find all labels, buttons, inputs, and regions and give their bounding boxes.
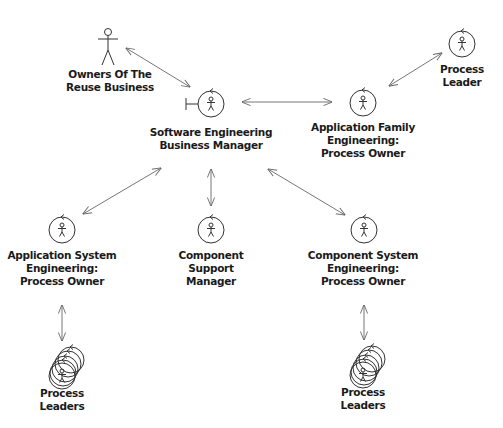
label-line: Manager [179,275,244,288]
label-line: Support [179,262,244,275]
node-label-owners: Owners Of The Reuse Business [66,68,154,94]
label-line: Software Engineering [150,126,272,139]
node-label-application-system: Application System Engineering: Process … [8,249,117,288]
label-line: Process [440,63,484,76]
label-line: Reuse Business [66,81,154,94]
label-line: Process Owner [311,147,415,160]
node-label-component-system: Component System Engineering: Process Ow… [308,249,418,288]
label-line: Component [179,249,244,262]
stacked-circles-with-figure-icon[interactable] [350,344,385,389]
stacked-circles-with-figure-icon[interactable] [49,345,84,390]
circle-with-figure-icon[interactable] [449,29,475,58]
label-line: Engineering: [8,262,117,275]
node-label-process-leader: Process Leader [440,63,484,89]
label-line: Business Manager [150,139,272,152]
label-line: Application Family [311,121,415,134]
label-line: Engineering: [308,262,418,275]
circle-with-figure-icon[interactable] [350,88,376,117]
edge-sebm-cse [268,169,345,215]
diagram-canvas [0,0,503,428]
label-line: Process [40,387,85,400]
circle-with-figure-icon[interactable] [198,215,224,244]
node-label-application-family: Application Family Engineering: Process … [311,121,415,160]
label-line: Process Owner [308,275,418,288]
label-line: Process [341,386,386,399]
stick-figure-icon[interactable] [98,29,118,66]
label-line: Application System [8,249,117,262]
edge-afe-pl [389,53,442,86]
label-line: Owners Of The [66,68,154,81]
node-label-process-leaders-right: Process Leaders [341,386,386,412]
node-label-se-business-manager: Software Engineering Business Manager [150,126,272,152]
label-line: Leaders [341,399,386,412]
circle-with-figure-icon[interactable] [49,215,75,244]
label-line: Component System [308,249,418,262]
node-label-component-support: Component Support Manager [179,249,244,288]
node-label-process-leaders-left: Process Leaders [40,387,85,413]
edge-sebm-ase [83,168,161,214]
label-line: Engineering: [311,134,415,147]
circle-with-figure-icon[interactable] [351,215,377,244]
label-line: Process Owner [8,275,117,288]
label-line: Leaders [40,400,85,413]
label-line: Leader [440,76,484,89]
boundary-circle-with-figure-icon[interactable] [186,89,224,118]
